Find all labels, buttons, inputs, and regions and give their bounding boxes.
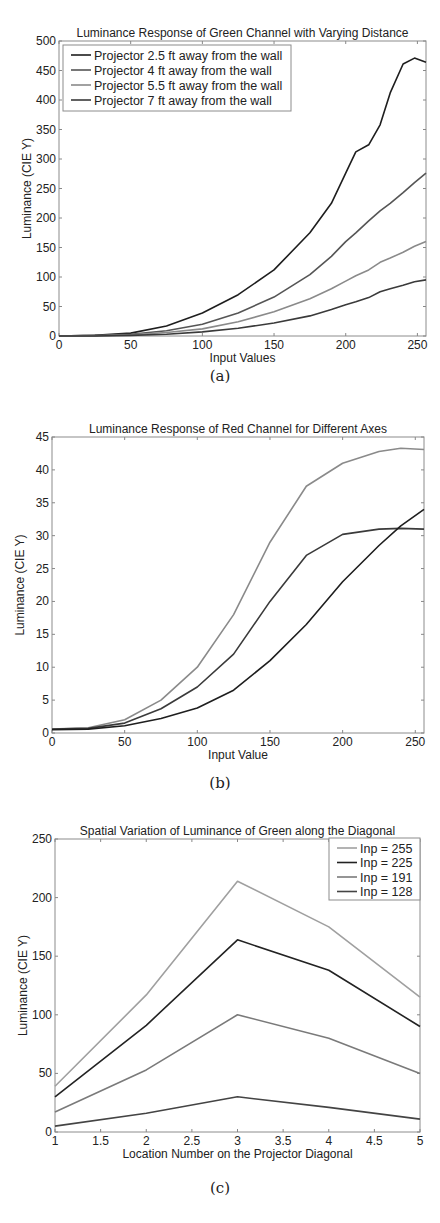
plot-frame bbox=[52, 437, 424, 733]
legend-entry: Projector 4 ft away from the wall bbox=[94, 64, 272, 78]
series-line bbox=[52, 528, 424, 729]
x-tick-label: 4 bbox=[325, 1134, 332, 1148]
x-axis-label: Input Values bbox=[210, 351, 276, 365]
x-tick-label: 2 bbox=[143, 1134, 150, 1148]
x-tick-label: 5 bbox=[417, 1134, 424, 1148]
legend-entry: Inp = 128 bbox=[360, 885, 413, 899]
y-tick-label: 30 bbox=[36, 529, 50, 543]
series-line bbox=[59, 242, 426, 336]
y-tick-label: 40 bbox=[36, 463, 50, 477]
x-tick-label: 250 bbox=[405, 735, 425, 749]
x-tick-label: 4.5 bbox=[366, 1134, 383, 1148]
y-tick-label: 50 bbox=[39, 1066, 53, 1080]
x-tick-label: 50 bbox=[124, 338, 138, 352]
x-tick-label: 0 bbox=[56, 338, 63, 352]
y-tick-label: 25 bbox=[36, 562, 50, 576]
y-tick-label: 0 bbox=[42, 726, 49, 740]
legend-entry: Projector 2.5 ft away from the wall bbox=[94, 49, 282, 63]
x-tick-label: 2.5 bbox=[184, 1134, 201, 1148]
x-tick-label: 200 bbox=[333, 735, 353, 749]
legend-entry: Inp = 191 bbox=[360, 871, 413, 885]
y-tick-label: 15 bbox=[36, 627, 50, 641]
chart-b: Luminance Response of Red Channel for Di… bbox=[13, 422, 426, 792]
y-tick-label: 50 bbox=[43, 300, 57, 314]
chart-a: Luminance Response of Green Channel with… bbox=[20, 26, 428, 385]
x-tick-label: 0 bbox=[49, 735, 56, 749]
y-tick-label: 5 bbox=[42, 693, 49, 707]
y-tick-label: 450 bbox=[36, 64, 56, 78]
legend-entry: Inp = 225 bbox=[360, 856, 413, 870]
x-axis-label: Location Number on the Projector Diagona… bbox=[122, 1147, 352, 1161]
y-tick-label: 200 bbox=[36, 211, 56, 225]
legend-entry: Projector 5.5 ft away from the wall bbox=[94, 79, 282, 93]
y-tick-label: 250 bbox=[36, 182, 56, 196]
y-tick-label: 20 bbox=[36, 594, 50, 608]
y-tick-label: 100 bbox=[36, 270, 56, 284]
y-tick-label: 150 bbox=[36, 241, 56, 255]
x-tick-label: 200 bbox=[336, 338, 356, 352]
series-line bbox=[55, 940, 420, 1097]
chart-c: Spatial Variation of Luminance of Green … bbox=[16, 824, 424, 1197]
series-line bbox=[55, 881, 420, 1086]
y-tick-label: 100 bbox=[32, 1008, 52, 1022]
x-tick-label: 150 bbox=[264, 338, 284, 352]
series-line bbox=[55, 1097, 420, 1126]
x-tick-label: 1.5 bbox=[92, 1134, 109, 1148]
series-line bbox=[59, 280, 426, 336]
x-tick-label: 100 bbox=[192, 338, 212, 352]
legend: Projector 2.5 ft away from the wallProje… bbox=[63, 45, 291, 111]
y-axis-label: Luminance (CIE Y) bbox=[13, 534, 27, 635]
y-tick-label: 150 bbox=[32, 949, 52, 963]
legend-entry: Inp = 255 bbox=[360, 842, 413, 856]
x-tick-label: 250 bbox=[407, 338, 427, 352]
x-tick-label: 150 bbox=[260, 735, 280, 749]
y-tick-label: 0 bbox=[49, 329, 56, 343]
y-tick-label: 45 bbox=[36, 430, 50, 444]
y-tick-label: 10 bbox=[36, 660, 50, 674]
legend: Inp = 255Inp = 225Inp = 191Inp = 128 bbox=[329, 838, 420, 900]
y-tick-label: 500 bbox=[36, 34, 56, 48]
y-tick-label: 250 bbox=[32, 832, 52, 846]
chart-title: Luminance Response of Red Channel for Di… bbox=[89, 422, 387, 436]
x-tick-label: 3.5 bbox=[275, 1134, 292, 1148]
x-tick-label: 3 bbox=[234, 1134, 241, 1148]
y-axis-label: Luminance (CIE Y) bbox=[20, 138, 34, 239]
legend-entry: Projector 7 ft away from the wall bbox=[94, 94, 272, 108]
y-tick-label: 35 bbox=[36, 496, 50, 510]
chart-title: Spatial Variation of Luminance of Green … bbox=[80, 824, 395, 838]
y-tick-label: 300 bbox=[36, 152, 56, 166]
x-tick-label: 50 bbox=[118, 735, 132, 749]
y-tick-label: 200 bbox=[32, 891, 52, 905]
chart-title: Luminance Response of Green Channel with… bbox=[77, 26, 409, 40]
figure-canvas: Luminance Response of Green Channel with… bbox=[0, 0, 440, 1223]
figure-caption: (a) bbox=[210, 367, 231, 385]
y-tick-label: 400 bbox=[36, 93, 56, 107]
y-axis-label: Luminance (CIE Y) bbox=[16, 935, 30, 1036]
y-tick-label: 0 bbox=[45, 1125, 52, 1139]
figure-caption: (b) bbox=[209, 774, 230, 792]
series-line bbox=[52, 509, 424, 729]
x-tick-label: 100 bbox=[187, 735, 207, 749]
y-tick-label: 350 bbox=[36, 123, 56, 137]
x-tick-label: 1 bbox=[52, 1134, 59, 1148]
series-line bbox=[59, 173, 426, 336]
x-axis-label: Input Value bbox=[208, 748, 268, 762]
figure-caption: (c) bbox=[210, 1179, 230, 1197]
